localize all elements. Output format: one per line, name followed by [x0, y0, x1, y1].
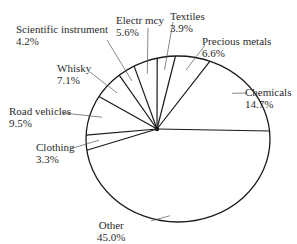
pie-hub: [155, 127, 159, 131]
pie-outline: [86, 56, 270, 222]
slice-name: Other: [99, 219, 124, 231]
slice-percent: 5.6%: [116, 26, 164, 38]
slice-percent: 6.6%: [202, 47, 271, 59]
slice-name: Chemicals: [245, 86, 291, 98]
slice-label-scientific-instrument: Scientific instrument 4.2%: [16, 23, 108, 47]
slice-name: Scientific instrument: [16, 23, 108, 35]
slice-name: Textiles: [170, 10, 205, 22]
slice-percent: 9.5%: [9, 117, 71, 129]
slice-percent: 14.7%: [245, 98, 291, 110]
slice-name: Electr mcy: [116, 14, 164, 26]
slice-label-electr-mcy: Electr mcy 5.6%: [116, 14, 164, 38]
slice-label-chemicals: Chemicals 14.7%: [245, 86, 291, 110]
slice-name: Precious metals: [202, 35, 271, 47]
slice-percent: 3.3%: [36, 153, 75, 165]
slice-percent: 3.9%: [170, 22, 205, 34]
slice-name: Clothing: [36, 141, 75, 153]
slice-label-precious-metals: Precious metals 6.6%: [202, 35, 271, 59]
slice-label-textiles: Textiles 3.9%: [170, 10, 205, 34]
slice-label-other: Other 45.0%: [97, 219, 125, 243]
slice-name: Road vehicles: [9, 105, 71, 117]
slice-label-clothing: Clothing 3.3%: [36, 141, 75, 165]
slice-percent: 7.1%: [57, 74, 91, 86]
slice-label-whisky: Whisky 7.1%: [57, 62, 91, 86]
slice-name: Whisky: [57, 62, 91, 74]
slice-label-road-vehicles: Road vehicles 9.5%: [9, 105, 71, 129]
slice-percent: 4.2%: [16, 35, 108, 47]
slice-percent: 45.0%: [97, 231, 125, 243]
